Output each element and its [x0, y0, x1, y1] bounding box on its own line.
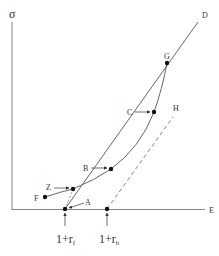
frontier-curve — [45, 63, 167, 197]
label-z: Z — [46, 183, 51, 192]
label-d: D — [202, 11, 208, 20]
point-rb — [105, 207, 109, 211]
efficient-frontier-diagram: σ E D H G C B Z F A 1+rf 1+rb — [0, 0, 219, 256]
label-c: C — [127, 108, 132, 117]
point-z — [71, 187, 75, 191]
label-h: H — [173, 104, 179, 113]
point-c — [152, 110, 156, 114]
label-f: F — [34, 194, 39, 203]
dashed-line-rb-h — [107, 117, 173, 209]
label-g: G — [164, 52, 170, 61]
label-a: A — [85, 198, 91, 207]
point-b — [109, 167, 113, 171]
point-g — [165, 61, 169, 65]
arrow-a — [69, 203, 84, 208]
label-rf: 1+rf — [56, 232, 76, 247]
point-f — [43, 195, 47, 199]
x-axis-label: E — [209, 206, 214, 215]
label-b: B — [83, 164, 88, 173]
y-axis-label: σ — [9, 7, 16, 21]
label-rb: 1+rb — [99, 232, 120, 247]
point-a — [63, 207, 67, 211]
